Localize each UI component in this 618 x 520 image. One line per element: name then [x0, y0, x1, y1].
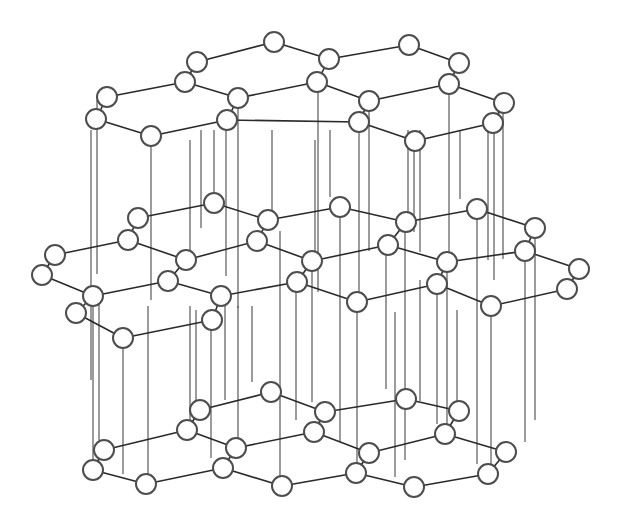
carbon-atom	[359, 91, 379, 111]
carbon-atom	[128, 208, 148, 228]
carbon-atom	[378, 235, 398, 255]
carbon-atom	[437, 252, 457, 272]
bond	[146, 468, 223, 484]
carbon-atom	[83, 286, 103, 306]
carbon-atom	[569, 259, 589, 279]
bond	[357, 284, 437, 302]
bond	[369, 434, 445, 453]
carbon-atom	[217, 110, 237, 130]
carbon-atom	[158, 271, 178, 291]
carbon-atom	[118, 230, 138, 250]
carbon-atom	[515, 241, 535, 261]
bond	[151, 120, 227, 136]
carbon-atom	[94, 440, 114, 460]
carbon-atom	[449, 53, 469, 73]
bond	[369, 84, 449, 101]
carbon-atom	[319, 49, 339, 69]
carbon-atom	[347, 292, 367, 312]
carbon-atom	[258, 210, 278, 230]
carbon-atom	[330, 197, 350, 217]
carbon-atom	[211, 286, 231, 306]
carbon-atom	[427, 274, 447, 294]
carbon-atom	[86, 109, 106, 129]
carbon-atom	[213, 458, 233, 478]
carbon-atom	[228, 88, 248, 108]
carbon-atom	[396, 389, 416, 409]
carbon-atom	[187, 52, 207, 72]
carbon-atom	[202, 310, 222, 330]
carbon-atom	[449, 401, 469, 421]
bond	[414, 474, 488, 487]
carbon-atom	[307, 72, 327, 92]
carbon-atom	[557, 279, 577, 299]
carbon-atom	[349, 112, 369, 132]
carbon-atom	[113, 328, 133, 348]
bond	[221, 282, 297, 296]
carbon-atom	[483, 113, 503, 133]
bond	[329, 45, 409, 59]
carbon-atom	[302, 251, 322, 271]
graphite-lattice-diagram	[0, 0, 618, 520]
bond	[104, 430, 187, 450]
carbon-atom	[525, 218, 545, 238]
carbon-atom	[175, 72, 195, 92]
bond	[238, 82, 317, 98]
bond	[123, 320, 212, 338]
carbon-atom	[494, 93, 514, 113]
carbon-atom	[141, 126, 161, 146]
carbon-atom	[287, 272, 307, 292]
carbon-atom	[66, 303, 86, 323]
carbon-atom	[399, 35, 419, 55]
bond	[186, 241, 257, 260]
carbon-atom	[261, 382, 281, 402]
carbon-atom	[204, 193, 224, 213]
bond	[415, 123, 493, 141]
bond	[282, 473, 356, 486]
bond	[138, 203, 214, 218]
carbon-atom	[83, 460, 103, 480]
carbon-atom	[496, 442, 516, 462]
carbon-atom	[346, 463, 366, 483]
bond	[197, 42, 274, 62]
carbon-atom	[435, 424, 455, 444]
carbon-atom	[315, 402, 335, 422]
carbon-atom	[97, 87, 117, 107]
carbon-atom	[359, 443, 379, 463]
carbon-atom	[439, 74, 459, 94]
bond	[491, 289, 567, 306]
carbon-atom	[396, 212, 416, 232]
bond	[312, 245, 388, 261]
bond	[325, 399, 406, 412]
carbon-atom	[136, 474, 156, 494]
carbon-atom	[247, 231, 267, 251]
carbon-atom	[190, 400, 210, 420]
carbon-atom	[478, 464, 498, 484]
bond	[93, 281, 168, 296]
carbon-atom	[272, 476, 292, 496]
carbon-atom	[304, 422, 324, 442]
carbon-atom	[45, 245, 65, 265]
bond	[227, 120, 359, 122]
carbon-atom	[176, 250, 196, 270]
carbon-atom	[264, 32, 284, 52]
carbon-atoms	[32, 32, 589, 497]
carbon-atom	[177, 420, 197, 440]
bond	[236, 432, 314, 448]
bond	[447, 251, 525, 262]
carbon-atom	[404, 477, 424, 497]
carbon-atom	[467, 199, 487, 219]
carbon-atom	[405, 131, 425, 151]
carbon-atom	[481, 296, 501, 316]
bond	[107, 82, 185, 97]
carbon-atom	[32, 265, 52, 285]
carbon-atom	[226, 438, 246, 458]
